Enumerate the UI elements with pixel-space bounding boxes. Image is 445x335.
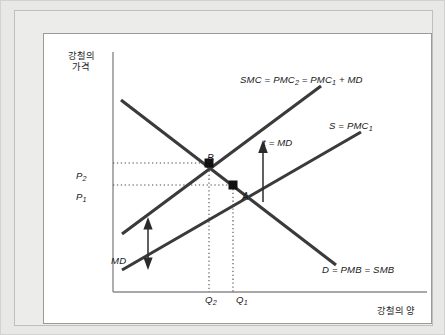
md-gap-arrow-head-down (143, 258, 152, 271)
diagram-canvas (44, 34, 432, 324)
price-tick-p2-sub: 2 (83, 174, 87, 183)
supply-curve-label: S = PMC1 (329, 120, 373, 133)
point-a-label: A (242, 191, 249, 203)
supply-label-pre: S = PMC (329, 120, 369, 131)
demand-curve-label: D = PMB = SMB (322, 264, 394, 275)
quantity-tick-q1-sub: 1 (244, 298, 248, 307)
md-gap-label: MD (111, 255, 126, 266)
quantity-tick-q2-sub: 2 (213, 298, 217, 307)
figure-outer-frame: 강철의 가격 강철의 양 SMC = PMC2 = PMC1 + MD S = … (0, 0, 445, 335)
quantity-tick-q2: Q2 (205, 294, 217, 307)
quantity-tick-q1-base: Q (236, 294, 244, 305)
price-tick-p2: P2 (76, 170, 87, 183)
y-axis-title: 강철의 가격 (68, 51, 94, 72)
figure-inner-bevel: 강철의 가격 강철의 양 SMC = PMC2 = PMC1 + MD S = … (14, 10, 433, 326)
quantity-tick-q2-base: Q (205, 294, 213, 305)
price-tick-p1: P1 (76, 191, 87, 204)
supply-label-sub1: 1 (369, 124, 373, 133)
price-tick-p1-sub: 1 (83, 195, 87, 204)
smc-label-post: + MD (336, 74, 363, 85)
chart-plot-panel: 강철의 가격 강철의 양 SMC = PMC2 = PMC1 + MD S = … (43, 33, 432, 324)
smc-curve-label: SMC = PMC2 = PMC1 + MD (240, 74, 363, 87)
equilibrium-point-a (229, 181, 238, 190)
x-axis-title: 강철의 양 (377, 306, 415, 317)
smc-label-mid: = PMC (299, 74, 332, 85)
y-axis-title-line2: 가격 (68, 62, 94, 73)
smc-label-pre: SMC = PMC (240, 74, 295, 85)
tax-arrow-label: t = MD (263, 137, 292, 148)
point-b-label: B (207, 153, 214, 165)
quantity-tick-q1: Q1 (236, 294, 248, 307)
